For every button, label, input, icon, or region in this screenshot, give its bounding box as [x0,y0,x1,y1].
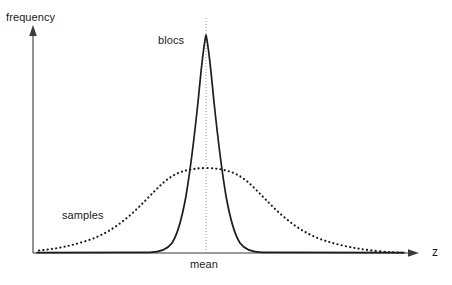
y-axis-arrow-icon [29,25,37,36]
blocs-curve-label: blocs [158,35,184,46]
x-axis-arrow-icon [408,249,419,257]
y-axis-label: frequency [6,12,55,23]
plot-canvas [0,0,452,285]
distribution-figure: frequency z blocs samples mean [0,0,452,285]
samples-curve-label: samples [62,210,104,221]
x-axis-label: z [432,246,438,258]
mean-tick-label: mean [190,259,218,270]
